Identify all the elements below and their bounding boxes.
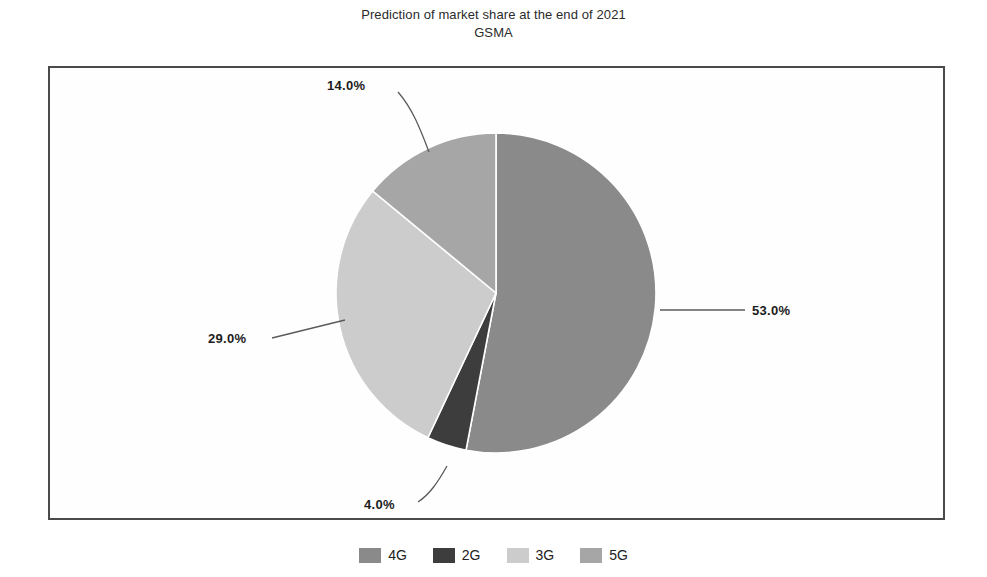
legend-item-5g[interactable]: 5G [580, 548, 628, 563]
legend-item-4g[interactable]: 4G [359, 548, 407, 563]
legend-item-3g[interactable]: 3G [507, 548, 555, 563]
plot-area-border [48, 66, 945, 520]
chart-legend: 4G2G3G5G [0, 548, 987, 563]
legend-swatch-icon [507, 548, 529, 563]
slice-value-label-5g: 14.0% [327, 78, 365, 93]
legend-label: 4G [388, 548, 407, 563]
slice-value-label-2g: 4.0% [364, 497, 395, 512]
legend-label: 2G [462, 548, 481, 563]
chart-title-block: Prediction of market share at the end of… [0, 6, 987, 42]
legend-item-2g[interactable]: 2G [433, 548, 481, 563]
legend-swatch-icon [580, 548, 602, 563]
page-title: Prediction of market share at the end of… [0, 6, 987, 24]
chart-subtitle: GSMA [0, 24, 987, 42]
pie-chart-figure: Prediction of market share at the end of… [0, 0, 987, 577]
legend-swatch-icon [359, 548, 381, 563]
legend-label: 5G [609, 548, 628, 563]
legend-label: 3G [536, 548, 555, 563]
slice-value-label-3g: 29.0% [208, 331, 246, 346]
slice-value-label-4g: 53.0% [752, 303, 790, 318]
legend-swatch-icon [433, 548, 455, 563]
